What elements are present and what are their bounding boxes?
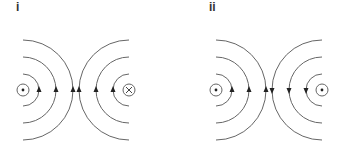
- field-lines-diagram: [0, 0, 337, 151]
- arrow-down-icon: [270, 88, 275, 94]
- arrow-up-icon: [247, 86, 252, 92]
- arrow-down-icon: [287, 88, 292, 94]
- arrow-up-icon: [94, 86, 99, 92]
- arrow-down-icon: [304, 88, 309, 94]
- arrow-up-icon: [264, 86, 269, 92]
- arrow-up-icon: [230, 86, 235, 92]
- arrow-up-icon: [111, 86, 116, 92]
- arrow-up-icon: [54, 86, 59, 92]
- arrow-up-icon: [37, 86, 42, 92]
- panel-i-field-lines: [17, 38, 135, 142]
- direction-arrows: [37, 86, 309, 94]
- panel-ii-field-lines: [210, 40, 328, 140]
- arrow-up-icon: [77, 86, 82, 92]
